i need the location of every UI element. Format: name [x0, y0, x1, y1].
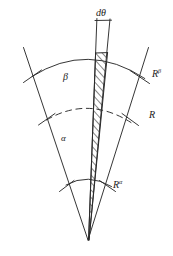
annular-sector-diagram: [0, 0, 173, 256]
figure-container: dθ β α Rβ R Rα: [0, 0, 173, 256]
label-radius-r-beta-exponent: β: [158, 67, 161, 74]
left-tick-outer: [24, 70, 42, 83]
left-radial-line: [24, 48, 89, 241]
left-tick-inner: [60, 181, 75, 192]
label-d-theta: dθ: [96, 8, 106, 18]
label-radius-r-alpha: Rα: [113, 180, 122, 190]
strip-hatch-fill: [80, 45, 120, 245]
label-radius-r-beta: Rβ: [152, 69, 161, 79]
label-region-alpha: α: [61, 134, 66, 143]
mid-arc-dashed: [47, 108, 132, 122]
label-radius-r-alpha-exponent: α: [119, 178, 122, 185]
label-radius-r: R: [149, 110, 155, 120]
left-tick-mid: [39, 114, 56, 126]
right-tick-outer: [130, 71, 150, 84]
label-region-beta: β: [63, 72, 68, 82]
outer-arc: [32, 59, 145, 78]
